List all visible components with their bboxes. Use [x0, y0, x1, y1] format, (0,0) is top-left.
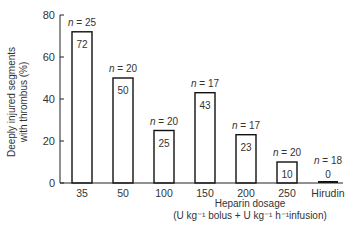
bar-value-label: 43	[199, 100, 211, 111]
y-axis-label-line2: with thrombus (%)	[18, 22, 30, 182]
bar-n-label: n = 20	[109, 63, 138, 74]
bar-n-label: n = 18	[314, 155, 343, 166]
bar-n-label: n = 25	[68, 17, 97, 28]
bar-n-label: n = 17	[191, 78, 220, 89]
bar-value-label: 0	[325, 169, 331, 180]
bars: 72n = 2550n = 2025n = 2043n = 1723n = 17…	[68, 17, 343, 183]
x-axis: 3550100150200250Hirudin	[60, 183, 345, 199]
y-axis: 020406080	[43, 9, 64, 189]
x-tick-label: 35	[76, 187, 88, 199]
bar-value-label: 10	[281, 169, 293, 180]
x-axis-units: (U kg⁻¹ bolus + U kg⁻¹ h⁻¹infusion)	[150, 210, 350, 222]
bar-n-label: n = 20	[273, 147, 302, 158]
x-axis-title: Heparin dosage	[150, 198, 350, 210]
bar-value-label: 50	[117, 85, 129, 96]
x-axis-label: Heparin dosage (U kg⁻¹ bolus + U kg⁻¹ h⁻…	[150, 198, 350, 222]
bar-n-label: n = 20	[150, 116, 179, 127]
bar-value-label: 72	[76, 39, 88, 50]
bar-value-label: 23	[240, 142, 252, 153]
bar-value-label: 25	[158, 138, 170, 149]
y-tick-label: 0	[49, 177, 55, 189]
y-axis-label: Deeply injured segments with thrombus (%…	[6, 22, 30, 182]
y-tick-label: 60	[43, 51, 55, 63]
y-tick-label: 40	[43, 93, 55, 105]
bar	[72, 32, 92, 183]
x-tick-label: 50	[117, 187, 129, 199]
y-tick-label: 20	[43, 135, 55, 147]
y-tick-label: 80	[43, 9, 55, 21]
y-axis-label-line1: Deeply injured segments	[6, 22, 18, 182]
bar-n-label: n = 17	[232, 120, 261, 131]
